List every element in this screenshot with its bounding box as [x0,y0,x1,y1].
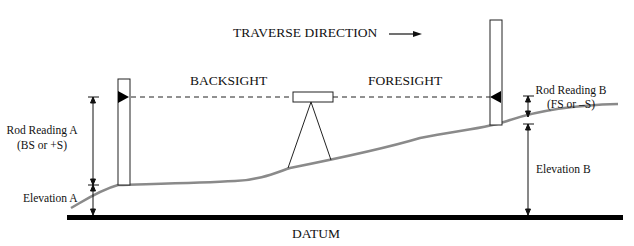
ground-profile [71,104,618,208]
backsight-label: BACKSIGHT [190,74,267,89]
elevation-a-label: Elevation A [23,192,78,205]
rod-reading-b-line2: (FS or –S) [530,98,612,111]
rod-reading-a-line2: (BS or +S) [4,139,80,152]
rod-reading-b-label: Rod Reading B (FS or –S) [530,84,612,110]
rod-reading-a-line1: Rod Reading A [4,124,80,137]
tripod-leg-right [311,102,331,160]
level-instrument [293,92,333,102]
datum-label: DATUM [292,227,340,242]
rod-reading-b-line1: Rod Reading B [530,84,612,97]
level-rod-b [490,20,502,125]
datum-bar [67,215,623,220]
tripod-leg-left [288,102,311,168]
rod-reading-a-label: Rod Reading A (BS or +S) [4,124,80,151]
traverse-direction-label: TRAVERSE DIRECTION [233,26,377,41]
foresight-label: FORESIGHT [368,74,442,89]
traverse-direction-arrow-icon [389,31,422,37]
elevation-b-label: Elevation B [536,163,591,176]
